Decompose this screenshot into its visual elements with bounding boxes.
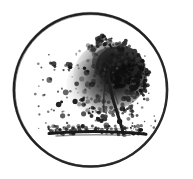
tree-emblem-illustration: Tree in circle emblem bbox=[0, 0, 193, 179]
emblem-root: Tree in circle emblem bbox=[0, 0, 193, 179]
